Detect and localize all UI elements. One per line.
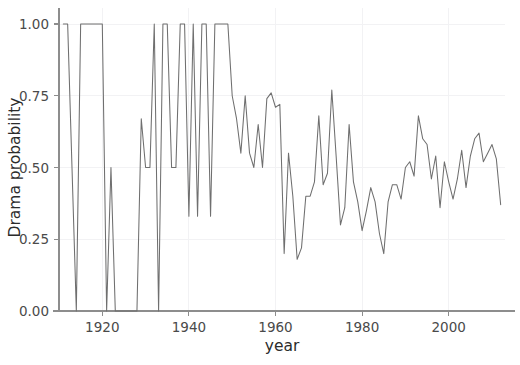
gridlines [59,8,505,311]
x-tick-label-3: 1980 [345,319,379,335]
axis-tick-labels: 0.000.250.500.751.0019201940196019802000 [19,16,466,335]
x-tick-label-2: 1960 [258,319,292,335]
drama-probability-line-chart: 0.000.250.500.751.0019201940196019802000… [0,0,520,365]
y-tick-label-0: 0.00 [19,303,49,319]
x-axis-title: year [265,337,300,355]
x-tick-label-0: 1920 [85,319,119,335]
chart-figure: 0.000.250.500.751.0019201940196019802000… [0,0,520,365]
y-axis-title: Drama probability [6,97,24,237]
axis-ticks [54,24,449,316]
y-tick-label-4: 1.00 [19,16,49,32]
x-tick-label-1: 1940 [172,319,206,335]
x-tick-label-4: 2000 [432,319,466,335]
